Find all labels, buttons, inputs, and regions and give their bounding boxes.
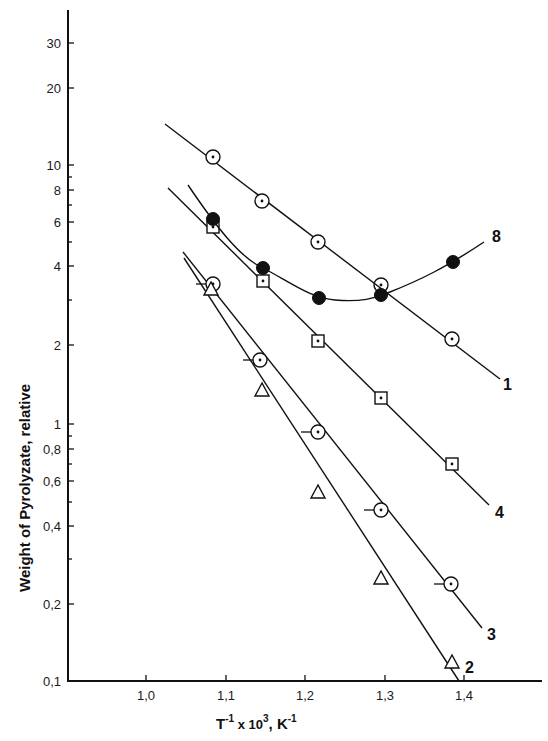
curve-label-4: 4: [495, 504, 504, 521]
svg-text:10: 10: [47, 158, 61, 173]
svg-text:0,1: 0,1: [43, 674, 61, 689]
y-axis-title: Weight of Pyrolyzate, relative: [16, 384, 33, 592]
x-axis-title: T-1 x 103, K-1: [216, 713, 297, 732]
fit-line-2: [184, 258, 459, 681]
open-square-dot-marker: [207, 221, 458, 470]
svg-text:2: 2: [54, 338, 61, 353]
fit-line-4: [168, 188, 489, 505]
svg-text:1,3: 1,3: [376, 688, 394, 703]
curve-label-8: 8: [492, 228, 501, 245]
open-triangle-marker: [204, 282, 459, 668]
pyrolyzate-arrhenius-chart: 30 20 10 8 6 4 2 1 0,8 0,6 0,4 0,2 0,1 1…: [0, 0, 548, 741]
svg-text:1,0: 1,0: [137, 688, 155, 703]
svg-text:1: 1: [54, 417, 61, 432]
curve-label-2: 2: [465, 659, 474, 676]
svg-text:0,4: 0,4: [43, 519, 61, 534]
svg-text:20: 20: [47, 81, 61, 96]
svg-text:1,2: 1,2: [296, 688, 314, 703]
curve-label-3: 3: [487, 626, 496, 643]
series-2: 2: [184, 258, 474, 681]
series-1: 1: [165, 124, 512, 393]
svg-text:4: 4: [54, 259, 61, 274]
x-tick-labels: 1,0 1,1 1,2 1,3 1,4: [137, 688, 473, 703]
svg-text:1,1: 1,1: [217, 688, 235, 703]
svg-text:8: 8: [54, 183, 61, 198]
svg-text:30: 30: [47, 36, 61, 51]
fit-curve-8: [188, 185, 484, 301]
curve-label-1: 1: [503, 376, 512, 393]
filled-circle-marker: [207, 213, 460, 305]
series-3: 3: [183, 252, 496, 643]
svg-text:6: 6: [54, 215, 61, 230]
y-tick-labels: 30 20 10 8 6 4 2 1 0,8 0,6 0,4 0,2 0,1: [43, 36, 61, 689]
series-4: 4: [168, 188, 504, 521]
open-circle-dot-marker: [206, 150, 459, 346]
series-8: 8: [188, 185, 501, 305]
svg-text:0,2: 0,2: [43, 597, 61, 612]
svg-text:0,6: 0,6: [43, 474, 61, 489]
fit-line-3: [183, 252, 482, 628]
svg-text:1,4: 1,4: [455, 688, 473, 703]
svg-text:0,8: 0,8: [43, 442, 61, 457]
